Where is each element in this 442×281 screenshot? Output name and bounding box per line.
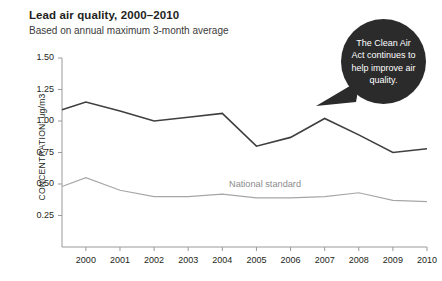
clean-air-act-callout: The Clean Air Act continues to help impr… bbox=[341, 19, 426, 104]
x-axis-tick-label: 2010 bbox=[407, 255, 442, 265]
national-standard-annotation: National standard bbox=[227, 179, 303, 189]
y-axis-ticks bbox=[58, 58, 62, 216]
x-axis-ticks bbox=[86, 247, 427, 251]
callout-text: The Clean Air Act continues to help impr… bbox=[349, 37, 418, 86]
